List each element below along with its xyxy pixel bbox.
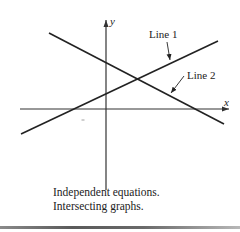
line-2-label: Line 2 <box>187 70 215 81</box>
x-axis-label: x <box>224 97 229 108</box>
y-axis-label: y <box>110 16 115 27</box>
caption-line-2: Intersecting graphs. <box>53 199 160 213</box>
bottom-divider <box>0 226 240 229</box>
line-1 <box>21 41 218 134</box>
caption-line-1: Independent equations. <box>53 185 160 199</box>
line-1-label: Line 1 <box>149 29 177 40</box>
figure-caption: Independent equations. Intersecting grap… <box>53 185 160 213</box>
line-1-pointer-arrow <box>167 42 170 60</box>
line-2-pointer-arrow <box>171 76 184 93</box>
